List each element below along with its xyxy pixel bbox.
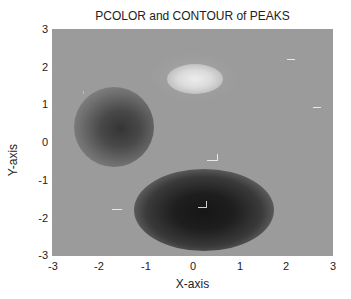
- contour-mark: [313, 107, 321, 108]
- y-tick-label: 3: [18, 23, 48, 35]
- x-tick-label: 2: [271, 260, 301, 272]
- x-tick-label: 1: [225, 260, 255, 272]
- chart-title: PCOLOR and CONTOUR of PEAKS: [52, 9, 333, 23]
- x-tick-label: -1: [131, 260, 161, 272]
- contour-mark: [207, 160, 217, 161]
- y-axis-label: Y-axis: [6, 144, 20, 176]
- left-valley-region: [74, 87, 154, 167]
- x-tick-label: -3: [38, 260, 68, 272]
- x-axis-label: X-axis: [52, 277, 333, 291]
- plot-area: [52, 29, 333, 256]
- y-tick-label: 1: [18, 98, 48, 110]
- y-tick-label: -1: [18, 174, 48, 186]
- y-tick-label: 0: [18, 136, 48, 148]
- y-tick-label: 2: [18, 61, 48, 73]
- contour-mark: [112, 209, 122, 210]
- contour-mark: [287, 59, 295, 60]
- contour-mark: [217, 154, 218, 161]
- x-tick-label: -2: [84, 260, 114, 272]
- y-tick-label: -2: [18, 212, 48, 224]
- peak-region: [167, 64, 223, 94]
- contour-mark: [83, 91, 84, 94]
- x-tick-label: 0: [178, 260, 208, 272]
- contour-mark: [206, 201, 207, 208]
- contour-mark: [198, 207, 206, 208]
- bottom-valley-region: [134, 169, 274, 251]
- x-tick-label: 3: [318, 260, 348, 272]
